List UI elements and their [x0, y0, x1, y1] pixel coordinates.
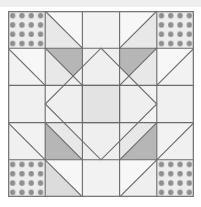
patch-r3c1 [8, 85, 45, 122]
patch-r5c3 [82, 160, 119, 197]
patch-corner-dotted-bottom-left [8, 160, 45, 197]
quilt-block-figure [8, 11, 194, 197]
patch-corner-dotted-top-left [8, 11, 45, 48]
patch-r3c5 [157, 85, 194, 122]
patch-center-square-top [82, 85, 119, 122]
patch-corner-dotted-top-right [157, 11, 194, 48]
top-band [0, 0, 201, 7]
patch-corner-dotted-bottom-right [157, 160, 194, 197]
patch-r1c3 [82, 11, 119, 48]
quilt-block-svg [8, 11, 194, 197]
screenshot-canvas [0, 0, 201, 207]
